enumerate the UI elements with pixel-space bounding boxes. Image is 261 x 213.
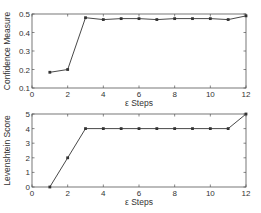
- y-tick-label: 5: [26, 110, 31, 119]
- confidence-plot: 0246810120.10.20.30.40.5ε StepsConfidenc…: [2, 10, 251, 108]
- x-axis-label: ε Steps: [125, 98, 153, 108]
- x-tick-label: 4: [101, 90, 106, 99]
- axes-box: [32, 14, 246, 88]
- data-point-marker: [138, 127, 141, 130]
- y-tick-label: 0.2: [19, 66, 31, 75]
- y-tick-label: 0: [26, 183, 31, 192]
- data-series-line: [50, 114, 246, 187]
- data-point-marker: [84, 16, 87, 19]
- x-tick-label: 0: [30, 189, 35, 198]
- data-point-marker: [191, 127, 194, 130]
- x-tick-label: 8: [172, 189, 177, 198]
- data-point-marker: [155, 127, 158, 130]
- x-tick-label: 8: [172, 90, 177, 99]
- x-tick-label: 4: [101, 189, 106, 198]
- y-axis-label: Levenshtein Score: [2, 115, 12, 186]
- x-tick-label: 2: [65, 90, 70, 99]
- data-point-marker: [245, 113, 248, 116]
- data-point-marker: [102, 18, 105, 21]
- x-tick-label: 12: [242, 189, 251, 198]
- data-point-marker: [102, 127, 105, 130]
- data-point-marker: [209, 17, 212, 20]
- y-tick-label: 1: [26, 168, 31, 177]
- data-point-marker: [48, 186, 51, 189]
- data-point-marker: [173, 17, 176, 20]
- chart-figure: 0246810120.10.20.30.40.5ε StepsConfidenc…: [0, 0, 261, 213]
- y-tick-label: 0.1: [19, 84, 31, 93]
- y-tick-label: 0.3: [19, 47, 31, 56]
- y-axis-label: Confidence Measure: [2, 12, 12, 91]
- levenshtein-plot: 024681012012345ε StepsLevenshtein Score: [2, 110, 251, 207]
- data-point-marker: [66, 68, 69, 71]
- x-tick-label: 12: [242, 90, 251, 99]
- y-tick-label: 0.5: [19, 10, 31, 19]
- data-point-marker: [120, 17, 123, 20]
- data-point-marker: [191, 17, 194, 20]
- data-point-marker: [227, 18, 230, 21]
- x-axis-label: ε Steps: [125, 197, 153, 207]
- y-tick-label: 0.4: [19, 29, 31, 38]
- data-point-marker: [138, 17, 141, 20]
- data-point-marker: [48, 71, 51, 74]
- data-point-marker: [120, 127, 123, 130]
- data-point-marker: [66, 156, 69, 159]
- data-point-marker: [84, 127, 87, 130]
- data-point-marker: [173, 127, 176, 130]
- data-point-marker: [209, 127, 212, 130]
- x-tick-label: 10: [206, 90, 215, 99]
- x-tick-label: 0: [30, 90, 35, 99]
- x-tick-label: 10: [206, 189, 215, 198]
- y-tick-label: 4: [26, 125, 31, 134]
- data-series-line: [50, 16, 246, 72]
- data-point-marker: [155, 18, 158, 21]
- data-point-marker: [245, 14, 248, 17]
- y-tick-label: 3: [26, 139, 31, 148]
- data-point-marker: [227, 127, 230, 130]
- axes-box: [32, 114, 246, 187]
- y-tick-label: 2: [26, 154, 31, 163]
- x-tick-label: 2: [65, 189, 70, 198]
